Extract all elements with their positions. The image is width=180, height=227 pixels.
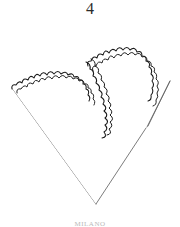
figure-container: 4	[0, 0, 180, 227]
figure-caption: MILANO	[0, 220, 180, 227]
napkin-fold-illustration	[0, 14, 180, 210]
